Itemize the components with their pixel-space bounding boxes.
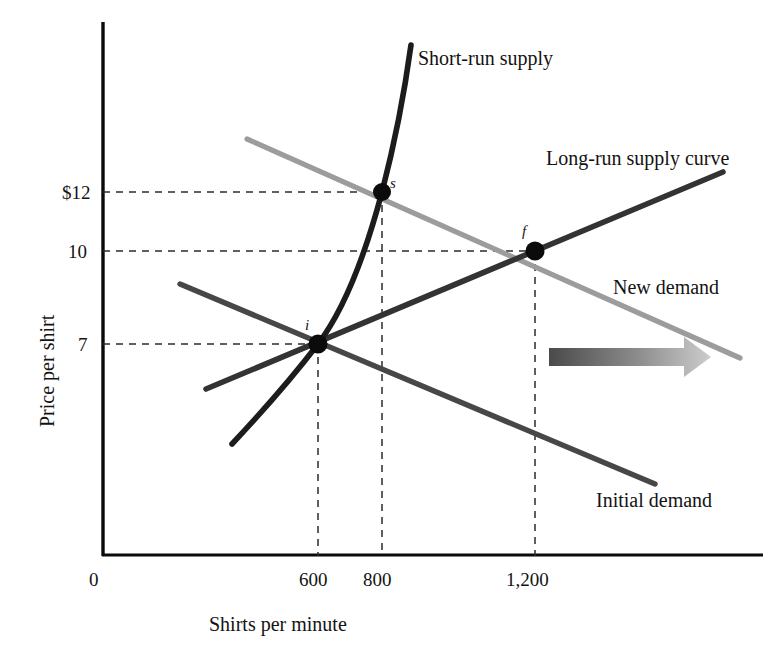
- point-label-f: f: [522, 224, 526, 239]
- marker-point-f: [526, 242, 545, 261]
- gridlines: [103, 192, 535, 556]
- point-label-i: i: [305, 318, 309, 333]
- equilibrium-markers: [309, 183, 545, 354]
- y-axis-title: Price per shirt: [37, 315, 57, 427]
- point-label-s: s: [390, 176, 396, 191]
- long-run-supply-label: Long-run supply curve: [546, 148, 729, 168]
- supply-demand-figure: $12 10 7 0 600 800 1,200 Price per shirt…: [0, 0, 781, 654]
- marker-point-s: [373, 183, 391, 201]
- x-origin-label: 0: [89, 570, 99, 589]
- x-tick-label-1200: 1,200: [506, 570, 549, 589]
- demand-shift-arrow: [549, 337, 711, 377]
- y-tick-label-12: $12: [62, 183, 91, 202]
- short-run-supply-label: Short-run supply: [418, 48, 553, 68]
- new-demand-curve: [247, 139, 740, 358]
- initial-demand-curve: [180, 284, 655, 484]
- short-run-supply-curve: [232, 45, 411, 444]
- y-tick-label-10: 10: [68, 242, 87, 261]
- marker-point-i: [309, 335, 328, 354]
- new-demand-label: New demand: [613, 277, 719, 297]
- chart-canvas: [0, 0, 781, 654]
- x-tick-label-800: 800: [363, 570, 392, 589]
- x-axis-title: Shirts per minute: [209, 614, 347, 634]
- y-tick-label-7: 7: [78, 335, 88, 354]
- x-tick-label-600: 600: [299, 570, 328, 589]
- initial-demand-label: Initial demand: [596, 490, 712, 510]
